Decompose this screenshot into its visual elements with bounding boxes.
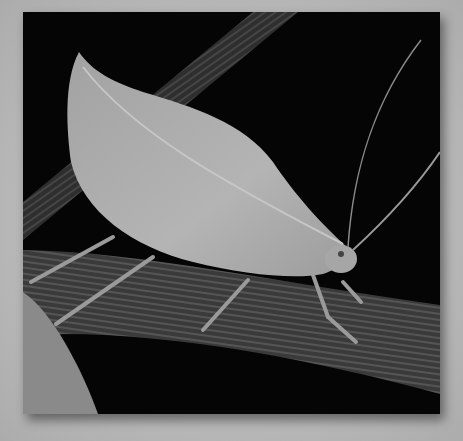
horizontal-stem <box>23 250 440 394</box>
katydid-photo <box>23 12 440 414</box>
photo-frame <box>0 0 463 441</box>
antenna-1 <box>348 40 421 247</box>
antenna-2 <box>353 152 440 250</box>
leaf-wing <box>67 52 353 276</box>
katydid-illustration <box>23 12 440 414</box>
katydid-head <box>325 245 357 273</box>
